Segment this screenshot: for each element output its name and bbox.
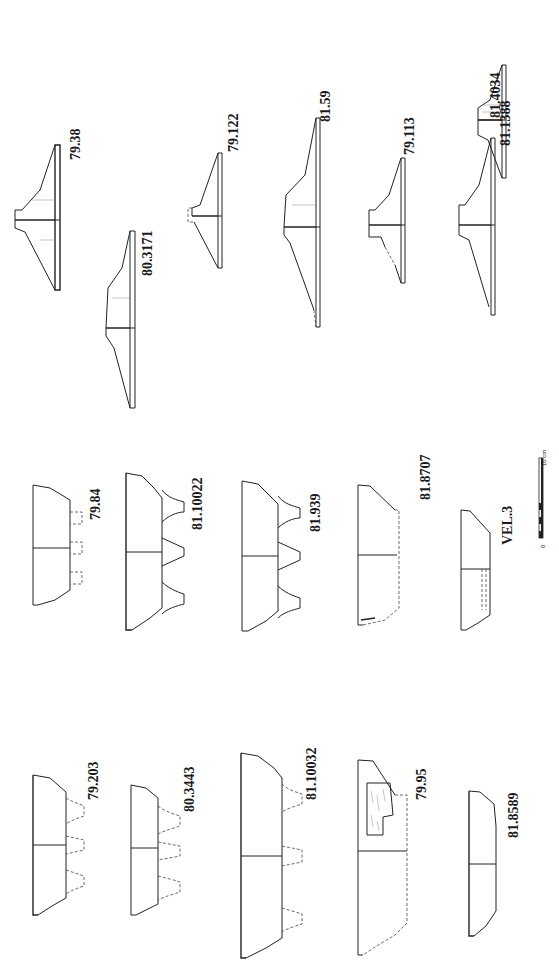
label-79-38: 79.38 <box>68 129 84 161</box>
label-81-939: 81.939 <box>308 494 324 533</box>
lid-drawing-79-122 <box>188 150 228 279</box>
label-81-8707: 81.8707 <box>418 455 434 501</box>
label-79-95: 79.95 <box>414 769 430 801</box>
label-79-122: 79.122 <box>226 114 242 153</box>
label-79-113: 79.113 <box>402 117 418 155</box>
label-79-203: 79.203 <box>86 762 102 801</box>
bowl-drawing-81-10022 <box>122 468 192 640</box>
label-80-3171: 80.3171 <box>140 231 156 277</box>
label-79-84: 79.84 <box>88 489 104 521</box>
bowl-drawing-81-939 <box>238 476 308 640</box>
bowl-drawing-81-8589 <box>466 786 511 950</box>
label-81-10022: 81.10022 <box>190 478 206 531</box>
lid-drawing-80-3171 <box>100 228 145 417</box>
label-vel-3: VEL.3 <box>500 506 516 545</box>
lid-drawing-79-113 <box>365 155 410 294</box>
pottery-plate: 81.4034 79.38 79.122 8 <box>0 0 559 978</box>
label-81-8589: 81.8589 <box>506 793 522 839</box>
bowl-drawing-80-3443 <box>128 780 188 924</box>
bowl-drawing-81-8707 <box>355 480 405 634</box>
label-81-59: 81.59 <box>318 91 334 123</box>
label-81-10032: 81.10032 <box>304 748 320 801</box>
bowl-drawing-79-84 <box>30 480 90 614</box>
bowl-drawing-79-95 <box>355 755 415 964</box>
lid-drawing-79-38 <box>10 140 70 299</box>
bowl-drawing-79-203 <box>30 770 90 924</box>
scale-bar <box>536 455 548 549</box>
bowl-drawing-vel-3 <box>458 505 503 639</box>
label-80-3443: 80.3443 <box>182 767 198 813</box>
lid-drawing-81-1388 <box>455 135 500 324</box>
lid-drawing-81-59 <box>280 115 325 334</box>
label-81-1388: 81.1388 <box>498 101 514 147</box>
bowl-drawing-81-10032 <box>238 748 308 967</box>
scale-start-label: 0 <box>540 545 546 548</box>
scale-end-label: 10 cm <box>541 450 547 466</box>
